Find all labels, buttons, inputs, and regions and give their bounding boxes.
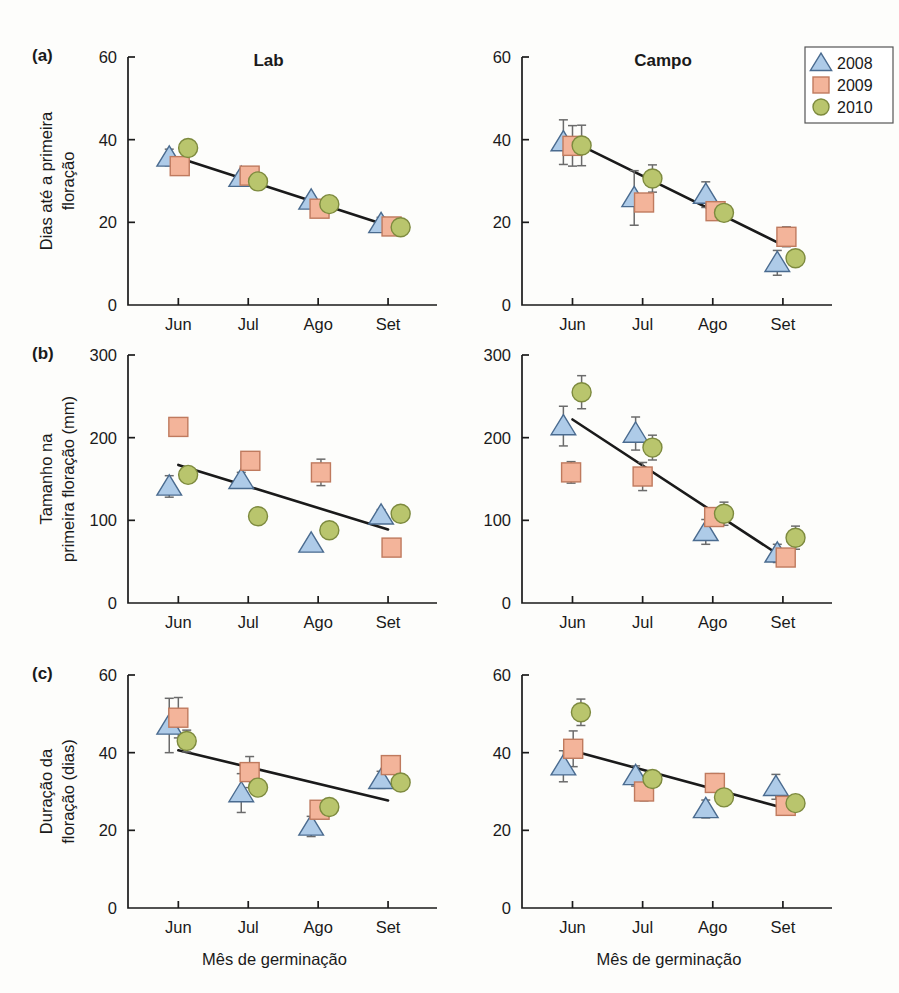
datapoint-c-campo-2009-Jun [564, 739, 583, 758]
datapoint-c-lab-2010-Ago [320, 798, 339, 817]
datapoint-a-lab-2010-Jun [179, 138, 198, 157]
regression-line-c-campo [572, 751, 782, 808]
datapoint-b-lab-2009-Jul [241, 451, 260, 470]
x-tick-label-a-lab-Ago: Ago [303, 315, 332, 333]
legend-label-2009: 2009 [837, 77, 873, 94]
multipanel-scatter-figure: 0204060JunJulAgoSetLab(a)Dias até a prim… [0, 0, 899, 993]
x-tick-label-b-campo-Jul: Jul [632, 613, 653, 631]
datapoint-c-lab-2010-Jun [177, 732, 196, 751]
datapoint-b-lab-2010-Set [391, 504, 410, 523]
y-tick-label-a-lab-60: 60 [99, 48, 117, 66]
y-tick-label-c-lab-0: 0 [108, 899, 117, 917]
chart-panel-b-campo: 0100200300JunJulAgoSet [483, 346, 832, 631]
datapoint-b-lab-2008-Set [369, 504, 394, 524]
legend-marker-2010-circle-icon [813, 99, 829, 115]
datapoint-b-lab-2010-Jul [249, 507, 268, 526]
x-tick-label-a-campo-Set: Set [771, 315, 796, 333]
x-tick-label-b-campo-Set: Set [771, 613, 796, 631]
legend-marker-2009-square-icon [813, 77, 829, 93]
y-tick-label-a-campo-60: 60 [493, 48, 511, 66]
datapoint-c-campo-2010-Jun [571, 703, 590, 722]
legend-item-2008[interactable]: 2008 [810, 53, 872, 72]
y-tick-label-c-campo-40: 40 [493, 744, 511, 762]
y-tick-label-c-campo-0: 0 [502, 899, 511, 917]
y-tick-label-a-campo-40: 40 [493, 131, 511, 149]
datapoint-b-lab-2009-Jun [169, 417, 188, 436]
datapoint-a-campo-2010-Ago [714, 203, 733, 222]
datapoint-a-campo-2009-Jul [635, 193, 654, 212]
panel-letter-c: (c) [32, 664, 53, 683]
datapoint-b-lab-2009-Ago [311, 463, 330, 482]
datapoint-b-campo-2010-Ago [714, 504, 733, 523]
chart-panel-c-campo: 0204060JunJulAgoSet [493, 666, 832, 936]
x-tick-label-a-lab-Set: Set [376, 315, 401, 333]
legend-label-2010: 2010 [837, 99, 873, 116]
datapoint-b-lab-2008-Jun [157, 475, 182, 495]
regression-line-b-lab [178, 465, 388, 529]
regression-line-c-lab [178, 750, 388, 800]
datapoint-b-campo-2008-Jun [551, 415, 576, 435]
y-tick-label-c-lab-20: 20 [99, 821, 117, 839]
datapoint-a-campo-2008-Ago [693, 183, 718, 203]
column-title-campo: Campo [634, 51, 692, 70]
chart-panel-c-lab: 0204060JunJulAgoSet [99, 666, 437, 936]
x-axis-title-c-campo: Mês de germinação [597, 950, 742, 968]
y-tick-label-b-campo-0: 0 [502, 594, 511, 612]
x-tick-label-b-campo-Ago: Ago [698, 613, 727, 631]
x-tick-label-b-lab-Set: Set [376, 613, 401, 631]
datapoint-b-campo-2010-Set [786, 528, 805, 547]
datapoint-b-lab-2008-Jul [229, 468, 254, 488]
x-tick-label-a-campo-Jul: Jul [632, 315, 653, 333]
x-tick-label-b-campo-Jun: Jun [559, 613, 586, 631]
datapoint-a-campo-2009-Set [777, 227, 796, 246]
axis-lines-b-lab [128, 355, 437, 603]
datapoint-b-lab-2010-Jun [179, 465, 198, 484]
y-tick-label-c-campo-60: 60 [493, 666, 511, 684]
datapoint-c-campo-2008-Set [764, 775, 789, 795]
y-tick-label-c-lab-60: 60 [99, 666, 117, 684]
legend-label-2008: 2008 [837, 55, 873, 72]
datapoint-b-campo-2009-Jun [562, 463, 581, 482]
x-tick-label-b-lab-Ago: Ago [303, 613, 332, 631]
datapoint-b-campo-2010-Jul [643, 438, 662, 457]
y-tick-label-a-campo-0: 0 [502, 296, 511, 314]
y-tick-label-c-lab-40: 40 [99, 744, 117, 762]
datapoint-b-lab-2010-Ago [320, 521, 339, 540]
datapoint-b-lab-2009-Set [382, 538, 401, 557]
y-tick-label-a-campo-20: 20 [493, 213, 511, 231]
x-tick-label-c-campo-Set: Set [771, 918, 796, 936]
datapoint-c-lab-2009-Jun [169, 708, 188, 727]
legend-item-2009[interactable]: 2009 [813, 77, 873, 94]
x-tick-label-a-lab-Jun: Jun [165, 315, 192, 333]
regression-line-a-lab [178, 158, 388, 226]
x-tick-label-b-lab-Jul: Jul [238, 613, 259, 631]
chart-panel-b-lab: 0100200300JunJulAgoSet [89, 346, 437, 631]
datapoint-b-campo-2009-Jul [633, 467, 652, 486]
y-axis-title-line-1-a: Dias até a primeira [37, 111, 55, 250]
y-axis-title-line-2-c: floração (dias) [59, 739, 77, 844]
x-tick-label-c-lab-Ago: Ago [303, 918, 332, 936]
chart-panel-a-lab: 0204060JunJulAgoSet [99, 48, 437, 333]
y-tick-label-a-lab-20: 20 [99, 213, 117, 231]
x-axis-title-c-lab: Mês de germinação [202, 950, 347, 968]
y-axis-title-line-2-a: floração [59, 152, 77, 211]
panel-letter-a: (a) [32, 46, 53, 65]
datapoint-a-campo-2010-Jun [572, 136, 591, 155]
x-tick-label-a-campo-Ago: Ago [698, 315, 727, 333]
datapoint-a-lab-2009-Jun [170, 157, 189, 176]
column-title-lab: Lab [253, 51, 283, 70]
datapoint-b-campo-2008-Jul [623, 422, 648, 442]
x-tick-label-c-campo-Ago: Ago [698, 918, 727, 936]
datapoint-b-campo-2009-Set [776, 548, 795, 567]
datapoint-b-lab-2008-Ago [299, 532, 324, 552]
datapoint-a-campo-2010-Set [786, 249, 805, 268]
regression-line-a-campo [572, 141, 782, 245]
y-tick-label-b-lab-0: 0 [108, 594, 117, 612]
x-tick-label-c-campo-Jul: Jul [632, 918, 653, 936]
x-tick-label-c-lab-Set: Set [376, 918, 401, 936]
legend-item-2010[interactable]: 2010 [813, 99, 873, 116]
y-tick-label-b-campo-200: 200 [483, 429, 511, 447]
y-axis-title-line-1-b: Tamanho na [37, 433, 55, 525]
legend: 200820092010 [805, 47, 893, 123]
y-tick-label-a-lab-40: 40 [99, 131, 117, 149]
